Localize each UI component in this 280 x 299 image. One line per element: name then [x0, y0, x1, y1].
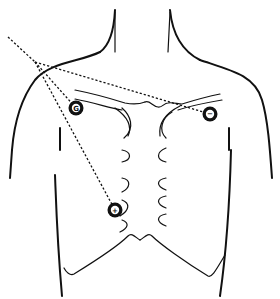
rib-right-3 [159, 178, 167, 190]
right-flank-line [220, 150, 231, 296]
costal-margin-right [140, 235, 225, 277]
lead-line-extension [8, 37, 35, 62]
electrode-label-ground: G [73, 105, 79, 113]
electrode-ground: G [69, 101, 84, 116]
rib-right-4 [159, 196, 167, 208]
clavicle-right-lower [178, 100, 222, 110]
rib-right-5 [159, 214, 167, 226]
lead-lines [8, 37, 210, 210]
costal-margin-left [64, 235, 140, 275]
clavicles [75, 90, 222, 110]
rib-left-2 [122, 150, 130, 162]
electrode-positive: + [108, 203, 123, 218]
electrode-label-negative: − [207, 110, 213, 118]
neck-left-line [100, 10, 115, 52]
rib-left-5 [120, 220, 127, 232]
costal-margin [64, 235, 225, 277]
left-flank-line [55, 175, 62, 296]
lead-line-positive [35, 62, 115, 210]
neck-right-line [170, 10, 200, 60]
rib-right-2 [159, 148, 167, 162]
sternum-ribs [115, 106, 180, 232]
electrode-label-positive: + [112, 207, 118, 215]
left-arm-outer [10, 150, 12, 178]
electrode-negative: − [203, 107, 218, 122]
rib-left-3 [122, 178, 129, 192]
sternal-notch [145, 94, 220, 107]
rib-left-1 [115, 108, 130, 136]
torso-outline [10, 10, 272, 296]
chest-electrode-diagram: G − + [0, 0, 280, 299]
clavicle-left-upper [75, 90, 145, 104]
rib-right-1b [162, 112, 172, 138]
neck-right-inner [168, 12, 170, 52]
lead-line-negative [35, 62, 210, 114]
